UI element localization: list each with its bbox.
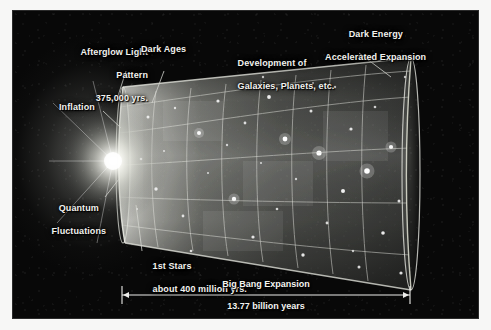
quantum-line-1: Quantum xyxy=(59,203,99,213)
universe-timeline-image: Afterglow Light Pattern 375,000 yrs. Dar… xyxy=(13,11,478,318)
label-dark-energy-accelerated-expansion: Dark Energy Accelerated Expansion xyxy=(283,17,453,75)
afterglow-line-2: Pattern xyxy=(116,70,148,80)
afterglow-line-3: 375,000 yrs. xyxy=(96,93,148,103)
axis-duration-13-77-billion-years: 13.77 billion years xyxy=(122,301,410,311)
label-quantum-fluctuations: Quantum Fluctuations xyxy=(31,191,111,249)
afterglow-line-1: Afterglow Light xyxy=(81,47,149,57)
first-stars-line-1: 1st Stars xyxy=(153,261,192,271)
quantum-line-2: Fluctuations xyxy=(51,226,106,236)
figure-canvas: Afterglow Light Pattern 375,000 yrs. Dar… xyxy=(0,0,491,330)
label-first-stars: 1st Stars about 400 million yrs. xyxy=(137,249,247,307)
galaxies-in-funnel xyxy=(136,76,406,275)
funnel-end-cap xyxy=(402,58,420,290)
label-dark-ages: Dark Ages xyxy=(141,44,186,56)
axis-title-big-bang-expansion: Big Bang Expansion xyxy=(122,279,410,289)
dark-energy-line-2: Accelerated Expansion xyxy=(325,52,426,62)
dark-energy-line-1: Dark Energy xyxy=(349,29,403,39)
development-line-2: Galaxies, Planets, etc. xyxy=(238,81,335,91)
label-inflation: Inflation xyxy=(59,102,95,114)
